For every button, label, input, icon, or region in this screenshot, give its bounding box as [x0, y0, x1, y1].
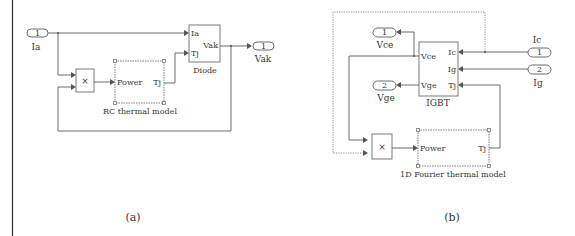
block-label: Diode	[193, 66, 217, 75]
signal-tj	[164, 53, 184, 83]
outport-number: 2	[382, 81, 387, 90]
port-label-ic: Ic	[448, 48, 456, 57]
diode-block[interactable]: Ia Tj Vak Diode	[189, 25, 220, 75]
igbt-block[interactable]: Vce Vge Ic Ig Tj IGBT	[419, 42, 458, 108]
panel-caption: (a)	[125, 211, 140, 224]
arrow-icon	[458, 49, 463, 55]
outport-label: Vce	[376, 40, 394, 50]
inport-number: 1	[35, 29, 40, 38]
inport-number: 1	[537, 48, 542, 57]
port-label-vge: Vge	[420, 81, 437, 90]
inport-ia[interactable]: 1 Ia	[27, 29, 48, 53]
block-label: RC thermal model	[103, 107, 177, 116]
multiply-icon: ×	[378, 142, 386, 152]
arrow-icon	[184, 50, 189, 56]
block-label: IGBT	[426, 98, 449, 108]
rc-thermal-model-block[interactable]: Power Tj RC thermal model	[103, 60, 177, 117]
port-label-tj: Tj	[448, 81, 456, 90]
fourier-thermal-model-block[interactable]: Power Tj 1D Fourier thermal model	[400, 129, 506, 180]
inport-ic[interactable]: 1 Ic	[528, 35, 551, 57]
arrow-icon	[363, 137, 368, 143]
arrow-icon	[413, 145, 418, 151]
inport-label: Ic	[533, 35, 542, 45]
port-label-ia: Ia	[191, 29, 199, 38]
block-label: 1D Fourier thermal model	[400, 170, 506, 179]
inport-label: Ig	[533, 78, 543, 88]
arrow-icon	[110, 79, 115, 85]
outport-vge[interactable]: 2 Vge	[373, 81, 396, 103]
figure-canvas: 1 Ia × Power Tj RC thermal model	[0, 0, 575, 236]
arrow-icon	[458, 82, 463, 88]
product-block[interactable]: ×	[76, 69, 94, 92]
panel-b: 1 Ic 2 Ig Vce Vge Ic Ig Tj IGBT	[333, 12, 551, 224]
arrow-icon	[396, 29, 401, 35]
panel-caption: (b)	[444, 211, 460, 224]
port-label-tj: Tj	[191, 49, 199, 58]
outport-vak[interactable]: 1 Vak	[253, 42, 274, 65]
panel-a: 1 Ia × Power Tj RC thermal model	[27, 25, 274, 224]
signal-vce	[401, 32, 419, 56]
inport-number: 2	[537, 65, 542, 74]
arrow-icon	[363, 150, 368, 156]
arrow-icon	[396, 82, 401, 88]
port-label-power: Power	[420, 144, 445, 153]
signal-ia-branch	[58, 33, 71, 75]
port-label-power: Power	[117, 78, 142, 87]
port-label-ig: Ig	[448, 65, 456, 74]
multiply-icon: ×	[81, 76, 89, 86]
port-label-vak: Vak	[202, 41, 218, 50]
arrow-icon	[71, 72, 76, 78]
outport-label: Vge	[376, 93, 395, 103]
outport-number: 1	[261, 42, 266, 51]
arrow-icon	[247, 43, 252, 49]
port-label-vce: Vce	[420, 52, 436, 61]
inport-label: Ia	[32, 42, 42, 52]
branch-point	[484, 51, 486, 53]
port-label-tj: Tj	[153, 78, 161, 87]
port-label-tj: Tj	[478, 144, 486, 153]
outport-label: Vak	[254, 54, 272, 64]
outport-number: 1	[382, 28, 387, 37]
product-block[interactable]: ×	[372, 134, 392, 159]
arrow-icon	[184, 30, 189, 36]
arrow-icon	[71, 84, 76, 90]
inport-ig[interactable]: 2 Ig	[528, 65, 551, 88]
outport-vce[interactable]: 1 Vce	[373, 28, 396, 50]
arrow-icon	[458, 66, 463, 72]
